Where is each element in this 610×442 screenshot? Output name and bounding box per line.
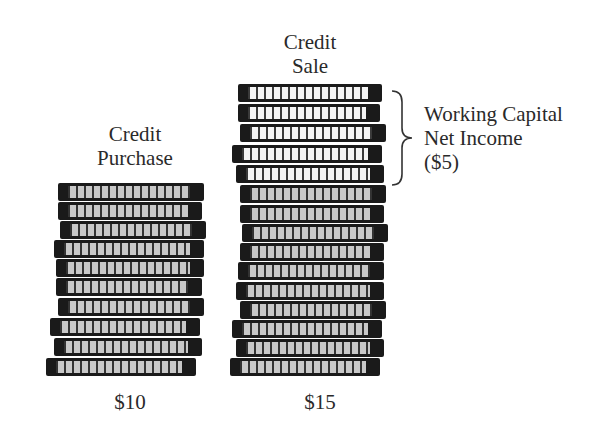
annotation-line2: Net Income	[424, 126, 604, 150]
credit-sale-value: $15	[280, 390, 360, 414]
coin-highlighted	[232, 145, 382, 163]
coin	[236, 282, 384, 300]
coin-highlighted	[236, 165, 384, 183]
coin	[242, 224, 388, 242]
coin-highlighted	[238, 104, 380, 122]
coin	[232, 320, 382, 338]
coin	[240, 205, 384, 223]
coin	[238, 262, 384, 280]
coin	[240, 185, 386, 203]
annotation-line3: ($5)	[424, 150, 604, 174]
coin	[240, 301, 386, 319]
credit-sale-coin-stack	[0, 0, 610, 442]
coin	[240, 243, 384, 261]
coin	[230, 358, 380, 376]
credit-purchase-value: $10	[90, 390, 170, 414]
coin-highlighted	[240, 124, 386, 142]
working-capital-annotation: Working Capital Net Income ($5)	[424, 102, 604, 174]
coin-highlighted	[238, 84, 382, 102]
coin	[236, 339, 384, 357]
annotation-line1: Working Capital	[424, 102, 604, 126]
curly-brace-icon	[388, 88, 418, 188]
